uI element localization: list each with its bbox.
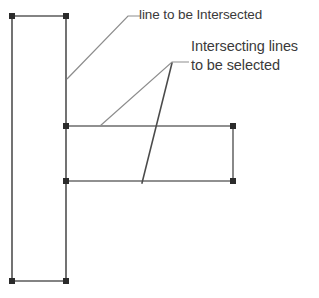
grip-band-top-right[interactable] [230,123,236,129]
grip-band-bottom-left[interactable] [63,178,69,184]
grip-band-top-left[interactable] [63,123,69,129]
annotation-label-selected-line1: Intersecting lines [191,38,298,54]
annotation-label-selected-line2: to be selected [191,56,298,75]
diagram-canvas: line to be Intersected Intersecting line… [0,0,319,298]
grip-rect-top-right[interactable] [63,13,69,19]
grip-rect-bottom-right[interactable] [63,278,69,284]
leader-line-selected [100,62,189,126]
annotation-label-intersected: line to be Intersected [139,7,262,23]
leader-line-intersected [67,16,140,79]
vertical-rectangle-shape[interactable] [12,16,66,281]
slanted-intersecting-line[interactable] [142,63,172,183]
grip-band-bottom-right[interactable] [230,178,236,184]
grip-rect-bottom-left[interactable] [9,278,15,284]
grip-rect-top-left[interactable] [9,13,15,19]
annotation-label-selected: Intersecting linesto be selected [191,37,298,75]
